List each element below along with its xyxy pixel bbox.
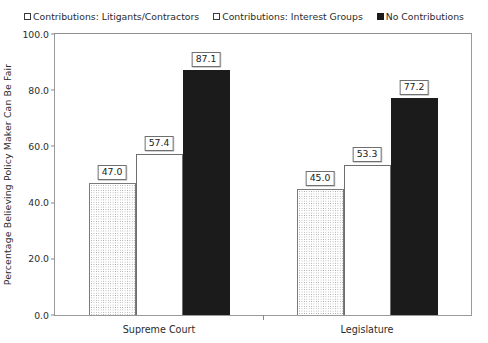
y-axis-tick-mark — [51, 258, 55, 259]
y-axis-tick-mark — [51, 34, 55, 35]
bar-value-label: 87.1 — [192, 52, 221, 67]
bar-value-label: 47.0 — [98, 165, 127, 180]
bar-chart: Contributions: Litigants/Contractors Con… — [0, 0, 488, 343]
bar-value-label: 45.0 — [306, 171, 335, 186]
x-axis-group-separator — [263, 315, 264, 320]
x-axis-category-label: Supreme Court — [123, 324, 196, 335]
bar — [297, 189, 344, 315]
legend-item-interest-groups: Contributions: Interest Groups — [213, 11, 363, 22]
bar — [391, 98, 438, 315]
y-axis-tick-mark — [51, 202, 55, 203]
bar-value-label: 53.3 — [353, 147, 382, 162]
open-square-icon — [213, 13, 220, 20]
filled-square-icon — [377, 13, 384, 20]
bar — [89, 183, 136, 315]
legend-label: Contributions: Interest Groups — [222, 11, 363, 22]
legend-label: Contributions: Litigants/Contractors — [33, 11, 199, 22]
y-axis-title: Percentage Believing Policy Maker Can Be… — [0, 33, 16, 316]
y-axis-tick-mark — [51, 90, 55, 91]
dotted-square-icon — [24, 13, 31, 20]
y-axis-tick-mark — [51, 146, 55, 147]
legend-item-no-contributions: No Contributions — [377, 11, 464, 22]
bar — [136, 154, 183, 315]
chart-legend: Contributions: Litigants/Contractors Con… — [0, 8, 488, 24]
legend-label: No Contributions — [386, 11, 464, 22]
y-axis-title-text: Percentage Believing Policy Maker Can Be… — [3, 64, 14, 285]
plot-area: 0.020.040.060.080.0100.047.057.487.1Supr… — [54, 33, 472, 316]
legend-item-litigants-contractors: Contributions: Litigants/Contractors — [24, 11, 199, 22]
y-axis-tick-mark — [51, 315, 55, 316]
bar-value-label: 57.4 — [145, 136, 174, 151]
bar-value-label: 77.2 — [400, 80, 429, 95]
x-axis-category-label: Legislature — [341, 324, 394, 335]
bar — [344, 165, 391, 315]
bar — [183, 70, 230, 315]
